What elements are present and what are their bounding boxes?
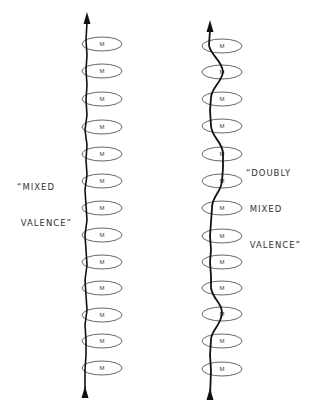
- metal-site: M: [82, 361, 122, 375]
- metal-site: M: [202, 201, 242, 215]
- metal-site-label: M: [100, 151, 105, 157]
- metal-site-label: M: [100, 365, 105, 371]
- metal-site-label: M: [220, 366, 225, 372]
- up-arrow-icon: [207, 388, 214, 400]
- metal-site-label: M: [100, 178, 105, 184]
- metal-site-label: M: [100, 285, 105, 291]
- metal-site-label: M: [100, 338, 105, 344]
- up-arrow-icon: [207, 20, 214, 32]
- metal-site-label: M: [220, 43, 225, 49]
- metal-site: M: [82, 64, 122, 78]
- metal-site: M: [202, 92, 242, 106]
- metal-site-label: M: [100, 68, 105, 74]
- left-chain: MMMMMMMMMMMMM: [82, 37, 122, 375]
- metal-site: M: [202, 119, 242, 133]
- metal-site-label: M: [100, 232, 105, 238]
- right-chain: MMMMMMMMMMMMM: [202, 39, 242, 376]
- metal-site: M: [82, 37, 122, 51]
- doubly-mixed-valence-label: “DOUBLY MIXED VALENCE”: [246, 143, 301, 263]
- metal-site-label: M: [100, 312, 105, 318]
- metal-site-label: M: [220, 123, 225, 129]
- label-line: VALENCE”: [17, 217, 72, 229]
- metal-site: M: [202, 334, 242, 348]
- metal-site: M: [82, 334, 122, 348]
- label-line: “DOUBLY: [246, 167, 301, 179]
- metal-site: M: [82, 308, 122, 322]
- metal-site: M: [82, 92, 122, 106]
- metal-site: M: [202, 255, 242, 269]
- metal-site: M: [82, 120, 122, 134]
- metal-site: M: [82, 255, 122, 269]
- up-arrow-icon: [82, 386, 89, 398]
- metal-site: M: [202, 229, 242, 243]
- metal-site-label: M: [100, 205, 105, 211]
- metal-site-label: M: [100, 96, 105, 102]
- metal-site-label: M: [220, 233, 225, 239]
- metal-site-label: M: [100, 41, 105, 47]
- metal-site-label: M: [220, 96, 225, 102]
- metal-site: M: [82, 201, 122, 215]
- metal-site: M: [82, 281, 122, 295]
- metal-site-label: M: [100, 259, 105, 265]
- metal-site: M: [82, 147, 122, 161]
- metal-site-label: M: [220, 338, 225, 344]
- up-arrow-icon: [84, 12, 91, 24]
- metal-site: M: [202, 281, 242, 295]
- label-line: MIXED: [246, 203, 301, 215]
- label-line: VALENCE”: [246, 239, 301, 251]
- mixed-valence-label: “MIXED VALENCE”: [17, 157, 72, 241]
- metal-site: M: [202, 362, 242, 376]
- metal-site: M: [202, 39, 242, 53]
- metal-site-label: M: [220, 285, 225, 291]
- label-line: “MIXED: [17, 181, 72, 193]
- metal-site-label: M: [220, 259, 225, 265]
- metal-site: M: [82, 174, 122, 188]
- metal-site-label: M: [100, 124, 105, 130]
- metal-site-label: M: [220, 205, 225, 211]
- metal-site: M: [82, 228, 122, 242]
